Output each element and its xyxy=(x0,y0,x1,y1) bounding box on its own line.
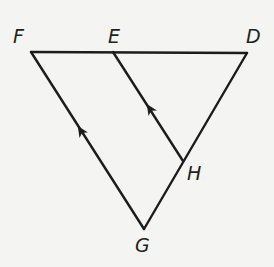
label-h: H xyxy=(187,162,201,184)
label-e: E xyxy=(108,25,120,47)
triangle-diagram: F E D H G xyxy=(0,0,274,267)
segment-dg xyxy=(144,53,247,229)
label-g: G xyxy=(135,234,150,256)
segment-fd xyxy=(31,52,247,53)
segment-fg xyxy=(31,52,144,229)
label-f: F xyxy=(13,25,25,47)
label-d: D xyxy=(246,25,261,47)
